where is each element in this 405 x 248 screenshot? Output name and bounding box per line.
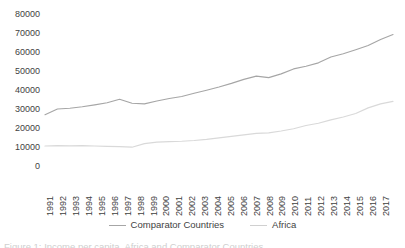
x-axis-tick-label: 2005 [227, 196, 236, 216]
figure: 0100002000030000400005000060000700008000… [0, 0, 405, 248]
x-axis-tick-label: 1993 [72, 196, 81, 216]
x-axis-tick-label: 1997 [124, 196, 133, 216]
x-axis-tick-label: 2009 [278, 196, 287, 216]
x-axis-tick-label: 2003 [201, 196, 210, 216]
legend-item[interactable]: Africa [250, 220, 296, 230]
x-axis-tick-label: 2013 [330, 196, 339, 216]
x-axis-tick-label: 1999 [150, 196, 159, 216]
y-axis-tick-label: 80000 [15, 10, 40, 19]
series-canvas [45, 14, 393, 166]
series-line-comparator-countries [45, 35, 393, 115]
chart-legend: Comparator CountriesAfrica [0, 218, 405, 232]
x-axis-tick-label: 2002 [188, 196, 197, 216]
x-axis-tick-label: 2006 [240, 196, 249, 216]
x-axis-tick-label: 2017 [382, 196, 391, 216]
y-axis-tick-label: 10000 [15, 143, 40, 152]
series-line-africa [45, 101, 393, 147]
legend-line-swatch [109, 225, 126, 226]
x-axis-tick-label: 2010 [291, 196, 300, 216]
legend-label: Africa [272, 220, 296, 230]
y-axis-tick-label: 40000 [15, 86, 40, 95]
x-axis-tick-label: 1998 [137, 196, 146, 216]
x-axis-tick-label: 1992 [59, 196, 68, 216]
y-axis-tick-label: 50000 [15, 67, 40, 76]
x-axis-tick-label: 2012 [317, 196, 326, 216]
x-axis-tick-label: 1996 [111, 196, 120, 216]
y-axis: 0100002000030000400005000060000700008000… [0, 0, 44, 200]
y-axis-tick-label: 0 [35, 162, 40, 171]
plot-area [45, 14, 393, 166]
x-axis-tick-label: 2008 [266, 196, 275, 216]
y-axis-tick-label: 70000 [15, 29, 40, 38]
figure-caption: Figure 1: Income per capita, Africa and … [4, 241, 402, 248]
x-axis-tick-label: 2011 [304, 197, 313, 216]
y-axis-tick-label: 60000 [15, 48, 40, 57]
y-axis-tick-label: 20000 [15, 124, 40, 133]
x-axis-tick-label: 2014 [343, 196, 352, 216]
x-axis-tick-label: 2000 [162, 196, 171, 216]
line-chart: 0100002000030000400005000060000700008000… [0, 0, 405, 200]
x-axis-tick-label: 1995 [98, 196, 107, 216]
x-axis-tick-label: 1994 [85, 196, 94, 216]
y-axis-tick-label: 30000 [15, 105, 40, 114]
x-axis-tick-label: 1991 [46, 196, 55, 216]
x-axis-tick-label: 2016 [369, 196, 378, 216]
x-axis-tick-label: 2015 [356, 196, 365, 216]
legend-line-swatch [250, 225, 267, 226]
x-axis-tick-label: 2001 [175, 196, 184, 216]
x-axis-tick-label: 2004 [214, 196, 223, 216]
x-axis: 1991199219931994199519961997199819992000… [45, 170, 393, 216]
legend-item[interactable]: Comparator Countries [109, 220, 224, 230]
legend-label: Comparator Countries [131, 220, 224, 230]
x-axis-tick-label: 2007 [253, 196, 262, 216]
